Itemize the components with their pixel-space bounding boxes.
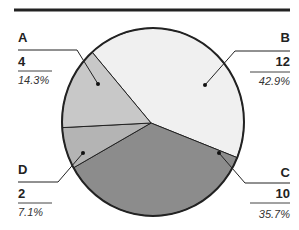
label-d-name: D	[18, 162, 27, 177]
label-d-value: 2	[18, 186, 25, 201]
label-d-pct: 7.1%	[18, 206, 43, 218]
label-c-pct: 35.7%	[259, 208, 290, 220]
label-c-value: 10	[276, 186, 290, 201]
label-a-name: A	[18, 30, 28, 45]
pie-chart: A 4 14.3% B 12 42.9% C 10 35.7% D 2 7.1%	[0, 0, 299, 230]
label-a-pct: 14.3%	[18, 74, 49, 86]
label-c-name: C	[281, 165, 291, 180]
label-a-value: 4	[18, 54, 26, 69]
label-b-pct: 42.9%	[259, 75, 290, 87]
label-b-value: 12	[276, 54, 290, 69]
label-b-name: B	[281, 30, 290, 45]
